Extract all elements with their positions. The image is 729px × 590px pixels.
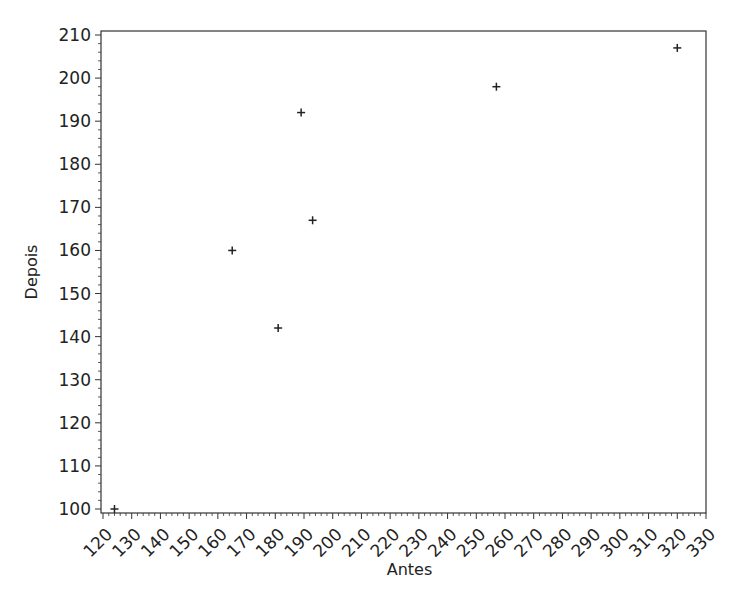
x-tick-label: 200 (309, 524, 346, 561)
x-tick-label: 130 (108, 524, 145, 561)
plus-marker-icon (110, 505, 118, 513)
y-tick-label: 140 (59, 327, 91, 347)
x-tick-label: 190 (280, 524, 317, 561)
x-tick-label: 230 (395, 524, 432, 561)
x-tick-label: 330 (682, 524, 719, 561)
x-tick-label: 120 (79, 524, 116, 561)
x-tick-label: 210 (338, 524, 375, 561)
plus-marker-icon (673, 44, 681, 52)
x-tick-label: 140 (137, 524, 174, 561)
x-axis: 1201301401501601701801902002102202302402… (79, 513, 719, 561)
y-tick-label: 130 (59, 370, 91, 390)
x-tick-label: 220 (366, 524, 403, 561)
plot-frame (101, 31, 706, 513)
y-tick-label: 210 (59, 25, 91, 45)
x-tick-label: 250 (452, 524, 489, 561)
x-tick-label: 180 (251, 524, 288, 561)
y-tick-label: 170 (59, 197, 91, 217)
plus-marker-icon (309, 216, 317, 224)
x-tick-label: 320 (653, 524, 690, 561)
x-tick-label: 290 (567, 524, 604, 561)
scatter-chart: 100110120130140150160170180190200210 120… (0, 0, 729, 590)
data-points (110, 44, 681, 513)
x-tick-label: 300 (596, 524, 633, 561)
plus-marker-icon (297, 109, 305, 117)
y-tick-label: 150 (59, 284, 91, 304)
x-tick-label: 150 (165, 524, 202, 561)
x-tick-label: 160 (194, 524, 231, 561)
y-axis-title: Depois (22, 245, 41, 300)
y-tick-label: 180 (59, 154, 91, 174)
y-tick-label: 200 (59, 68, 91, 88)
y-tick-label: 100 (59, 499, 91, 519)
x-tick-label: 270 (510, 524, 547, 561)
plus-marker-icon (228, 246, 236, 254)
x-tick-label: 280 (539, 524, 576, 561)
plus-marker-icon (492, 83, 500, 91)
y-tick-label: 110 (59, 456, 91, 476)
x-tick-label: 310 (625, 524, 662, 561)
y-axis: 100110120130140150160170180190200210 (59, 25, 101, 519)
y-tick-label: 160 (59, 240, 91, 260)
x-tick-label: 260 (481, 524, 518, 561)
x-tick-label: 170 (223, 524, 260, 561)
y-tick-label: 190 (59, 111, 91, 131)
x-tick-label: 240 (424, 524, 461, 561)
plus-marker-icon (274, 324, 282, 332)
x-axis-title: Antes (387, 560, 433, 579)
y-tick-label: 120 (59, 413, 91, 433)
